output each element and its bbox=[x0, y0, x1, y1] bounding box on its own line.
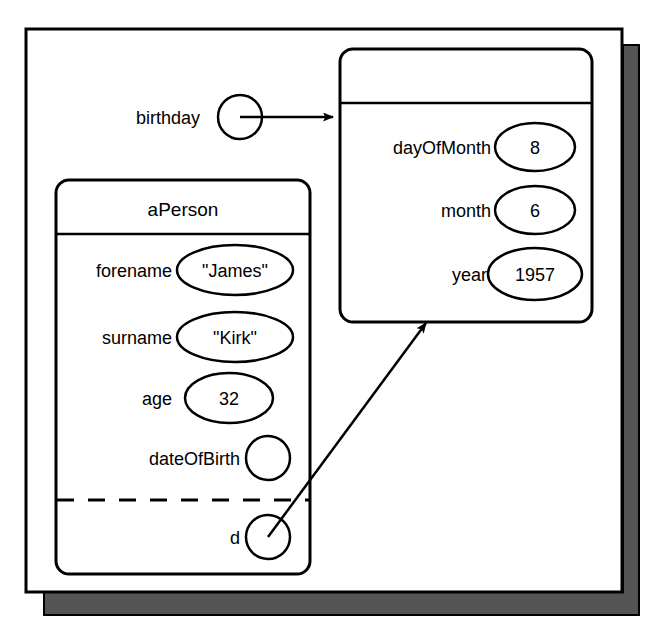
attribute-label-dayofmonth: dayOfMonth bbox=[393, 138, 491, 158]
value-text-year: 1957 bbox=[515, 265, 555, 285]
value-circle-dateofbirth bbox=[246, 436, 290, 480]
diagram-svg: dayOfMonth 8 month 6 year 1957 aPerson bbox=[0, 0, 658, 629]
value-text-forename: "James" bbox=[202, 261, 268, 281]
value-text-surname: "Kirk" bbox=[213, 328, 257, 348]
value-text-dayofmonth: 8 bbox=[530, 138, 540, 158]
attribute-label-forename: forename bbox=[96, 261, 172, 281]
object-diagram-canvas: dayOfMonth 8 month 6 year 1957 aPerson bbox=[0, 0, 658, 629]
value-text-age: 32 bbox=[219, 389, 239, 409]
attribute-label-month: month bbox=[441, 201, 491, 221]
value-text-month: 6 bbox=[530, 201, 540, 221]
attribute-label-year: year bbox=[452, 265, 487, 285]
attribute-label-surname: surname bbox=[102, 328, 172, 348]
object-node-date[interactable]: dayOfMonth 8 month 6 year 1957 bbox=[340, 49, 592, 322]
object-node-person[interactable]: aPerson forename "James" surname "Kirk" … bbox=[56, 180, 310, 574]
attribute-label-dateofbirth: dateOfBirth bbox=[149, 449, 240, 469]
link-label-birthday: birthday bbox=[136, 108, 200, 128]
attribute-label-age: age bbox=[142, 389, 172, 409]
object-title-person: aPerson bbox=[148, 199, 219, 220]
local-label-d: d bbox=[230, 528, 240, 548]
